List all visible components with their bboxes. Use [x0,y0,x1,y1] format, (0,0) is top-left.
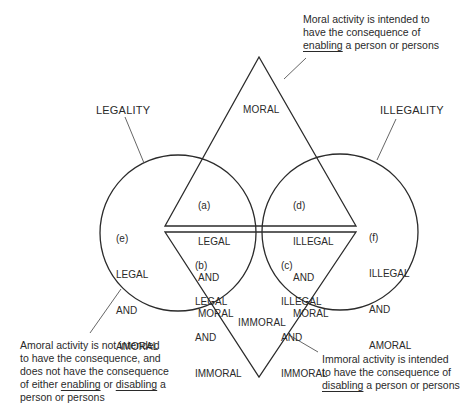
amoral-note-line4: of either enabling or disabling a [20,378,169,391]
region-e-line1: LEGAL [116,269,158,281]
moral-note: Moral activity is intended to have the c… [303,13,439,52]
region-b-line2: AND [195,332,242,344]
amoral-note-line5: person or persons [20,391,169,404]
region-d-line1: ILLEGAL [293,236,334,248]
moral-leader [284,58,306,79]
region-f-tag: (f) [369,232,411,244]
amoral-note-line4-pre: of either [20,378,61,390]
region-d-line3: MORAL [293,308,334,320]
region-f-line3: AMORAL [369,340,411,352]
amoral-note-line3: does not have the consequence [20,365,169,378]
enabling-term: enabling [61,378,101,390]
legality-leader [125,117,144,163]
moral-heading: MORAL [243,104,280,115]
amoral-note: Amoral activity is not intended to have … [20,339,169,404]
immoral-note-line2: to have the consequence of [322,366,460,379]
legality-heading: LEGALITY [96,104,150,116]
moral-note-line3-rest: a person or persons [343,39,439,51]
region-f-line2: AND [369,304,411,316]
region-d-tag: (d) [293,200,334,212]
region-d-line2: AND [293,272,334,284]
illegality-heading: ILLEGALITY [380,104,444,116]
region-c-line2: AND [281,332,328,344]
enabling-term: enabling [303,39,343,51]
immoral-note-line3-rest: a person or persons [363,379,459,391]
region-f-label: (f) ILLEGAL AND AMORAL [369,208,411,364]
region-e-line2: AND [116,305,158,317]
region-b-line1: LEGAL [195,296,242,308]
region-b-line3: IMMORAL [195,368,242,380]
illegality-leader [377,119,396,160]
immoral-note-line3: disabling a person or persons [322,379,460,392]
moral-note-line2: have the consequence of [303,26,439,39]
amoral-note-line1: Amoral activity is not intended [20,339,169,352]
region-b-tag: (b) [195,260,242,272]
amoral-note-line2: to have the consequence, and [20,352,169,365]
region-f-line1: ILLEGAL [369,268,411,280]
region-d-label: (d) ILLEGAL AND MORAL [293,176,334,332]
region-b-label: (b) LEGAL AND IMMORAL [195,236,242,392]
amoral-note-line4-mid: or [101,378,116,390]
region-e-tag: (e) [116,233,158,245]
immoral-note-line1: Immoral activity is intended [322,353,460,366]
amoral-note-line4-post: a [157,378,166,390]
disabling-term: disabling [322,379,363,391]
region-a-tag: (a) [198,200,234,212]
region-c-line3: IMMORAL [281,368,328,380]
immoral-heading: IMMORAL [238,317,286,328]
disabling-term: disabling [116,378,157,390]
moral-note-line3: enabling a person or persons [303,39,439,52]
moral-note-line1: Moral activity is intended to [303,13,439,26]
immoral-note: Immoral activity is intended to have the… [322,353,460,392]
